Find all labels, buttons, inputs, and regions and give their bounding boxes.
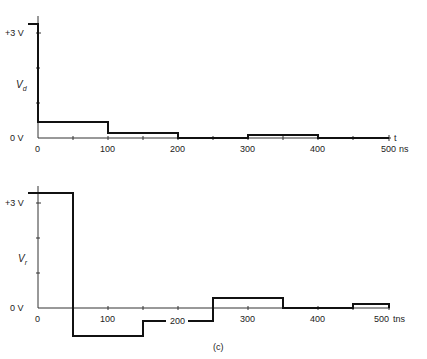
top-y-label-0v: 0 V bbox=[10, 133, 24, 143]
bottom-x-tick-400: 400 bbox=[310, 314, 325, 324]
top-unit-label: ns bbox=[399, 144, 409, 154]
bottom-y-axis-title: Vr bbox=[18, 253, 28, 266]
top-x-tick-300: 300 bbox=[240, 144, 255, 154]
top-x-tick-0: 0 bbox=[35, 144, 40, 154]
top-x-tick-100: 100 bbox=[100, 144, 115, 154]
bottom-x-tick-100: 100 bbox=[100, 314, 115, 324]
top-x-tick-500: 500 bbox=[381, 144, 396, 154]
top-waveform bbox=[28, 24, 389, 138]
bottom-waveform bbox=[28, 193, 166, 336]
figure-label: (c) bbox=[213, 342, 224, 352]
top-x-tick-400: 400 bbox=[310, 144, 325, 154]
bottom-unit-label: tns bbox=[393, 314, 406, 324]
top-chart: +3 V 0 V Vd 0 100 200 300 400 500 t ns bbox=[5, 16, 409, 154]
top-y-label-3v: +3 V bbox=[5, 28, 24, 38]
bottom-x-tick-200: 200 bbox=[170, 316, 185, 326]
top-x-tick-200: 200 bbox=[170, 144, 185, 154]
bottom-waveform-cont bbox=[188, 298, 389, 321]
bottom-chart: +3 V 0 V Vr 0 100 200 300 400 500 tns bbox=[5, 186, 406, 336]
bottom-y-label-0v: 0 V bbox=[10, 303, 24, 313]
waveform-figure: +3 V 0 V Vd 0 100 200 300 400 500 t ns +… bbox=[0, 0, 427, 359]
bottom-y-label-3v: +3 V bbox=[5, 198, 24, 208]
bottom-x-tick-500: 500 bbox=[374, 314, 389, 324]
bottom-x-tick-0: 0 bbox=[35, 314, 40, 324]
top-t-label: t bbox=[394, 133, 397, 143]
bottom-x-tick-300: 300 bbox=[240, 314, 255, 324]
top-y-axis-title: Vd bbox=[16, 79, 28, 92]
